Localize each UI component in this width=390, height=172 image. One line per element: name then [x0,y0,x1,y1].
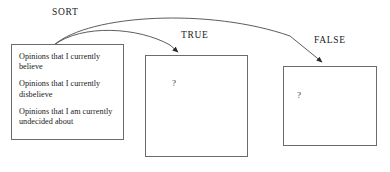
diagram-canvas: Opinions that I currently believe Opinio… [0,0,390,172]
opinion-item: Opinions that I am currently undecided a… [19,107,117,127]
true-box[interactable]: ? [145,55,248,157]
true-label: TRUE [181,30,209,40]
opinion-item: Opinions that I currently disbelieve [19,79,117,99]
opinions-box[interactable]: Opinions that I currently believe Opinio… [11,44,124,140]
opinion-item: Opinions that I currently believe [19,52,117,72]
false-label: FALSE [314,35,346,45]
true-box-question-mark: ? [172,79,176,88]
false-box-question-mark: ? [297,91,301,100]
false-box[interactable]: ? [283,66,377,146]
sort-label: SORT [52,7,79,17]
